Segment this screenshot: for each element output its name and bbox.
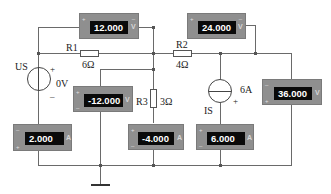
- node: [152, 164, 155, 167]
- wire-r3-top: [100, 69, 154, 70]
- resistor-r2: [173, 50, 192, 57]
- voltage-source-us: [27, 67, 51, 91]
- wire-top-mid-drop: [153, 27, 154, 54]
- wire-bottom: [38, 165, 292, 166]
- meter-unit: V: [131, 23, 136, 30]
- node: [219, 52, 222, 55]
- node: [219, 164, 222, 167]
- r3-label: R3: [136, 97, 148, 107]
- meter-minus: –: [132, 16, 135, 22]
- meter-plus: +: [265, 98, 269, 104]
- wire-top-right: [246, 25, 255, 26]
- meter-reading: 6.000: [207, 132, 245, 145]
- voltmeter-r3: + – -12.000 V: [73, 86, 133, 112]
- meter-reading: 2.000: [25, 132, 64, 145]
- us-label: US: [15, 62, 28, 72]
- r3-value: 3Ω: [160, 97, 172, 107]
- ammeter-us: – + 2.000 A: [13, 124, 72, 151]
- wire-right-lower: [291, 104, 292, 166]
- meter-minus: –: [265, 82, 268, 88]
- voltmeter-r2: + – 24.000 V: [187, 13, 246, 39]
- meter-unit: V: [238, 23, 243, 30]
- voltmeter-r1: + – 12.000 V: [79, 13, 139, 39]
- node: [99, 164, 102, 167]
- meter-plus: +: [199, 127, 203, 133]
- ammeter-r3: + – -4.000 A: [128, 124, 184, 150]
- wire-ground: [100, 165, 101, 185]
- meter-plus: +: [16, 144, 20, 150]
- meter-reading: 12.000: [90, 21, 128, 34]
- wire-is-bottom: [220, 103, 221, 124]
- is-label: IS: [204, 106, 213, 116]
- wire-top-right-drop: [255, 25, 256, 53]
- r1-value: 6Ω: [82, 60, 94, 70]
- meter-minus: –: [16, 127, 19, 133]
- node: [152, 68, 155, 71]
- node: [254, 52, 257, 55]
- ground-symbol: [91, 184, 110, 186]
- meter-minus: –: [199, 143, 202, 149]
- is-value: 6A: [240, 85, 252, 95]
- is-plus: +: [233, 96, 238, 106]
- r1-label: R1: [66, 43, 78, 53]
- us-minus: –: [50, 91, 55, 101]
- node: [37, 52, 40, 55]
- meter-minus: –: [76, 105, 79, 111]
- resistor-r3: [150, 89, 157, 108]
- us-value: 0V: [56, 79, 68, 89]
- ammeter-is: + – 6.000 A: [196, 124, 254, 150]
- meter-reading: -12.000: [84, 94, 123, 107]
- meter-unit: A: [66, 134, 71, 141]
- wire-aus-bottom: [38, 151, 39, 166]
- meter-unit: A: [177, 134, 182, 141]
- node: [152, 52, 155, 55]
- r2-label: R2: [176, 40, 188, 50]
- meter-unit: A: [247, 134, 252, 141]
- meter-plus: +: [82, 16, 86, 22]
- meter-plus: +: [190, 16, 194, 22]
- meter-unit: V: [315, 89, 320, 96]
- node: [152, 26, 155, 29]
- wire-vr3-up: [100, 69, 101, 86]
- voltmeter-is: – + 36.000 V: [262, 79, 322, 105]
- meter-reading: 24.000: [198, 21, 236, 34]
- wire-top-left: [38, 27, 79, 28]
- meter-reading: 36.000: [274, 87, 312, 100]
- meter-minus: –: [131, 143, 134, 149]
- meter-unit: V: [125, 96, 130, 103]
- meter-minus: –: [239, 16, 242, 22]
- meter-reading: -4.000: [138, 132, 174, 145]
- current-source-is: [208, 79, 232, 103]
- wire-right: [291, 53, 292, 79]
- wire-top-mid: [139, 27, 153, 28]
- r2-value: 4Ω: [176, 60, 188, 70]
- meter-plus: +: [76, 89, 80, 95]
- us-plus: +: [50, 64, 55, 74]
- wire-vr3-down: [100, 112, 101, 166]
- circuit-diagram: US + 0V – IS 6A + R1 6Ω R2 4Ω R3 3Ω + – …: [0, 0, 331, 194]
- meter-plus: +: [131, 127, 135, 133]
- wire-r3-branch: [153, 53, 154, 123]
- resistor-r1: [80, 50, 99, 57]
- wire-is-top: [220, 53, 221, 79]
